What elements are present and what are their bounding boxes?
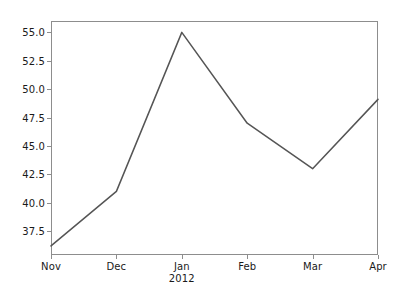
y-axis-tick-mark (47, 231, 51, 232)
y-axis-tick-label: 37.5 (22, 226, 45, 237)
x-axis-tick-label: Apr (369, 261, 387, 272)
x-axis-tick-label: Dec (107, 261, 127, 272)
x-axis-tick-label: Nov (41, 261, 61, 272)
x-axis-tick-sublabel: 2012 (169, 273, 195, 284)
y-axis-tick-labels: 37.540.042.545.047.550.052.555.0 (0, 0, 45, 296)
line-series-plot (51, 21, 378, 255)
y-axis-tick-label: 45.0 (22, 140, 45, 151)
x-axis-tick-mark (247, 255, 248, 259)
chart-figure: 37.540.042.545.047.550.052.555.0 NovDecJ… (0, 0, 397, 296)
x-axis-tick-label: Feb (238, 261, 256, 272)
x-axis-tick-label: Mar (303, 261, 322, 272)
y-axis-tick-mark (47, 32, 51, 33)
y-axis-tick-mark (47, 146, 51, 147)
x-axis-tick-label: Jan2012 (169, 261, 195, 284)
y-axis-tick-mark (47, 174, 51, 175)
y-axis-tick-label: 47.5 (22, 112, 45, 123)
data-line-series-1 (51, 32, 378, 246)
y-axis-tick-label: 55.0 (22, 27, 45, 38)
y-axis-tick-mark (47, 61, 51, 62)
y-axis-tick-label: 50.0 (22, 84, 45, 95)
y-axis-tick-label: 40.0 (22, 197, 45, 208)
x-axis-tick-mark (116, 255, 117, 259)
y-axis-tick-mark (47, 89, 51, 90)
y-axis-tick-label: 52.5 (22, 55, 45, 66)
x-axis-tick-mark (313, 255, 314, 259)
x-axis-tick-mark (378, 255, 379, 259)
x-axis-tick-mark (182, 255, 183, 259)
y-axis-tick-label: 42.5 (22, 169, 45, 180)
x-axis-tick-mark (51, 255, 52, 259)
y-axis-tick-mark (47, 118, 51, 119)
y-axis-tick-mark (47, 203, 51, 204)
